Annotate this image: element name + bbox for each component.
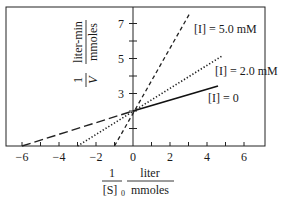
lineweaver-burk-chart: 7 5 3 −6 −4 −2 0 2 4 6 [I] = 5.0 mM [I] … (0, 0, 298, 197)
svg-text:liter: liter (140, 166, 159, 180)
annotation-i2: [I] = 2.0 mM (215, 64, 278, 78)
y-tick-label-5: 5 (118, 52, 124, 66)
series-i2-line (78, 56, 223, 146)
y-tick-label-7: 7 (118, 17, 124, 31)
annotation-i5: [I] = 5.0 mM (194, 22, 257, 36)
x-tick-label-neg4: −4 (53, 150, 66, 164)
svg-text:[S]: [S] (103, 183, 118, 197)
x-tick-label-4: 4 (204, 150, 210, 164)
svg-text:1: 1 (71, 77, 85, 83)
series-i5-line (115, 13, 191, 146)
x-tick-label-6: 6 (241, 150, 247, 164)
y-axis-label: 1 V liter-min mmoles (71, 20, 100, 87)
x-tick-label-neg6: −6 (16, 150, 29, 164)
svg-text:1: 1 (109, 166, 115, 180)
svg-text:mmoles: mmoles (131, 183, 169, 197)
x-axis-label: 1 [S] 0 liter mmoles (102, 166, 174, 197)
series-i0-extrapolation (22, 111, 133, 146)
svg-text:mmoles: mmoles (86, 23, 100, 61)
x-tick-label-0: 0 (130, 150, 136, 164)
svg-text:liter-min: liter-min (71, 21, 85, 63)
svg-text:0: 0 (121, 189, 125, 197)
svg-text:V: V (86, 75, 100, 84)
y-tick-label-3: 3 (118, 87, 124, 101)
x-tick-label-2: 2 (167, 150, 173, 164)
x-tick-label-neg2: −2 (90, 150, 103, 164)
annotation-i0: [I] = 0 (208, 91, 239, 105)
